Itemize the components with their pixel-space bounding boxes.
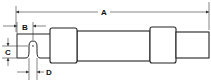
dim-d-arrow-right: [37, 71, 40, 74]
dim-d-arrow-left: [26, 71, 29, 74]
right-terminal: [176, 32, 209, 58]
left-end-cap: [50, 28, 77, 63]
dimension-b: B: [3, 22, 46, 40]
fuse-dimension-diagram: A B C D: [0, 0, 211, 82]
right-end-cap: [150, 27, 176, 63]
fuse-tube: [77, 31, 150, 61]
fuse-body: [50, 27, 209, 63]
slot-center-mark: [32, 45, 34, 47]
dimension-c: C: [2, 38, 28, 66]
dimension-d: D: [17, 58, 52, 80]
dim-a-label: A: [101, 8, 107, 17]
dimension-a: A: [16, 2, 209, 32]
dim-c-arrow-bottom: [7, 58, 10, 61]
dim-b-arrow-left: [14, 25, 17, 28]
dim-c-arrow-top: [7, 43, 10, 46]
dim-d-label: D: [46, 68, 52, 77]
dim-c-label: C: [5, 48, 11, 57]
dim-a-arrow-right: [206, 11, 209, 14]
dim-b-label: B: [22, 23, 28, 32]
dim-a-arrow-left: [16, 11, 19, 14]
dim-b-arrow-right: [33, 25, 36, 28]
